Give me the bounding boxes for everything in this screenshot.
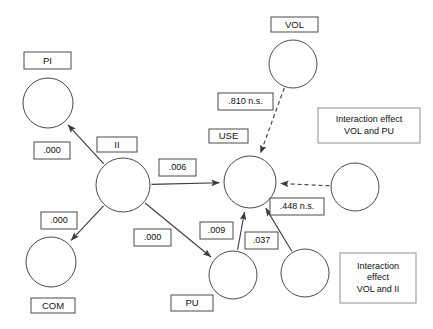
construct-circle-int_vol_pu [331, 163, 379, 211]
coefficient-text-vol_to_use: .810 n.s. [228, 96, 263, 106]
coefficient-text-ii_to_pi: .000 [43, 145, 61, 155]
construct-label-text-pu: PU [185, 297, 198, 308]
construct-node-pu[interactable]: PU [171, 251, 257, 311]
construct-node-int_vol_ii[interactable] [281, 249, 329, 297]
annotation-note-line: Interaction effect [336, 114, 403, 124]
annotation-note-line: VOL and PU [344, 126, 394, 136]
path-arrow-intvolpu_to_use [280, 183, 329, 185]
construct-circle-vol [269, 40, 317, 88]
construct-node-use[interactable]: USE [209, 129, 276, 208]
annotation-note-line: effect [367, 272, 389, 282]
construct-label-text-vol: VOL [285, 19, 304, 30]
construct-label-text-ii: II [114, 139, 119, 150]
construct-node-ii[interactable]: II [96, 137, 150, 212]
annotation-note-note_vol_ii: InteractioneffectVOL and II [340, 253, 416, 303]
coefficient-text-ii_to_pu: .000 [144, 232, 162, 242]
coefficient-text-ii_to_com: .000 [50, 215, 68, 225]
annotation-note-line: Interaction [357, 261, 399, 271]
construct-circle-com [26, 237, 76, 287]
construct-node-pi[interactable]: PI [23, 52, 73, 128]
path-diagram-canvas: PIIIUSEVOLCOMPU Interaction effectVOL an… [0, 0, 433, 329]
construct-node-vol[interactable]: VOL [269, 17, 318, 88]
path-arrow-ii_to_use [151, 183, 219, 185]
annotation-note-line: VOL and II [357, 284, 400, 294]
construct-node-com[interactable]: COM [26, 237, 76, 313]
construct-node-int_vol_pu[interactable] [331, 163, 379, 211]
construct-circle-int_vol_ii [281, 249, 329, 297]
coefficient-labels-layer: .000.000.006.000.009.037.810 n.s..448 n.… [34, 93, 324, 249]
path-diagram-container: PIIIUSEVOLCOMPU Interaction effectVOL an… [0, 0, 433, 329]
coefficient-label-pu_to_use: .009 [200, 222, 233, 239]
coefficient-text-intvolpu_to_use: .448 n.s. [280, 201, 315, 211]
construct-label-text-use: USE [219, 130, 239, 141]
coefficient-label-intvolpu_to_use: .448 n.s. [270, 198, 324, 215]
annotation-note-note_vol_pu: Interaction effectVOL and PU [318, 108, 420, 143]
coefficient-label-ii_to_com: .000 [41, 212, 77, 229]
construct-circle-pu [209, 251, 257, 299]
construct-circle-pi [23, 78, 73, 128]
coefficient-label-vol_to_use: .810 n.s. [218, 93, 273, 110]
coefficient-label-ii_to_use: .006 [159, 159, 196, 176]
coefficient-text-pu_to_use: .009 [208, 225, 226, 235]
coefficient-label-intvolii_to_use: .037 [245, 232, 278, 249]
coefficient-label-ii_to_pu: .000 [134, 229, 171, 246]
construct-circle-ii [96, 158, 150, 212]
construct-nodes-layer: PIIIUSEVOLCOMPU [23, 17, 379, 313]
coefficient-text-ii_to_use: .006 [169, 162, 187, 172]
coefficient-label-ii_to_pi: .000 [34, 142, 70, 159]
coefficient-text-intvolii_to_use: .037 [253, 235, 271, 245]
construct-circle-use [224, 156, 276, 208]
construct-label-text-com: COM [42, 300, 64, 311]
construct-label-text-pi: PI [43, 55, 52, 66]
path-arrow-pu_to_use [238, 212, 245, 250]
